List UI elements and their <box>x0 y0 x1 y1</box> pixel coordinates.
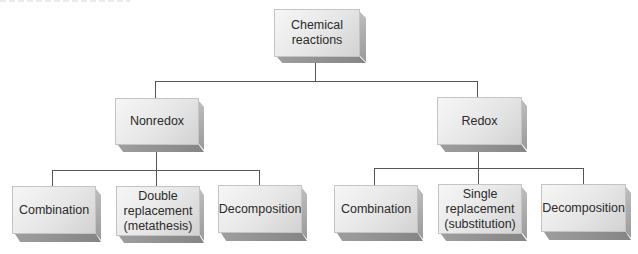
node-label: Combination <box>341 202 411 217</box>
node-nonredox-decomposition: Decomposition <box>218 185 307 241</box>
connector-redox-combination <box>374 168 375 185</box>
node-label: Decomposition <box>219 202 302 217</box>
node-label: Chemical reactions <box>275 18 359 48</box>
node-label: Decomposition <box>542 201 625 216</box>
node-double-replacement: Double replacement (metathesis) <box>116 186 204 243</box>
connector-redox-decomposition <box>583 168 584 184</box>
connector-root-vertical <box>315 63 316 81</box>
node-label: Nonredox <box>130 114 184 129</box>
connector-redox-single <box>478 168 479 184</box>
clipped-top-text <box>0 0 130 2</box>
node-label: Combination <box>19 203 89 218</box>
connector-level1-horizontal <box>155 81 478 82</box>
connector-redox-horizontal <box>374 168 584 169</box>
node-redox: Redox <box>437 97 527 152</box>
connector-nonredox-double <box>156 170 157 186</box>
connector-nonredox-decomposition <box>259 170 260 185</box>
node-label: Double replacement (metathesis) <box>124 189 193 234</box>
connector-nonredox-down <box>156 152 157 170</box>
node-label: Single replacement (substitution) <box>444 187 516 232</box>
connector-nonredox-vertical <box>155 81 156 98</box>
node-chemical-reactions: Chemical reactions <box>274 9 366 63</box>
node-redox-combination: Combination <box>334 185 423 241</box>
node-nonredox-combination: Combination <box>12 186 101 242</box>
node-label: Redox <box>461 114 497 129</box>
connector-redox-down <box>478 152 479 168</box>
node-single-replacement: Single replacement (substitution) <box>438 184 527 241</box>
connector-nonredox-combination <box>52 170 53 186</box>
connector-redox-vertical <box>477 81 478 97</box>
node-nonredox: Nonredox <box>115 98 204 152</box>
node-redox-decomposition: Decomposition <box>541 184 631 240</box>
